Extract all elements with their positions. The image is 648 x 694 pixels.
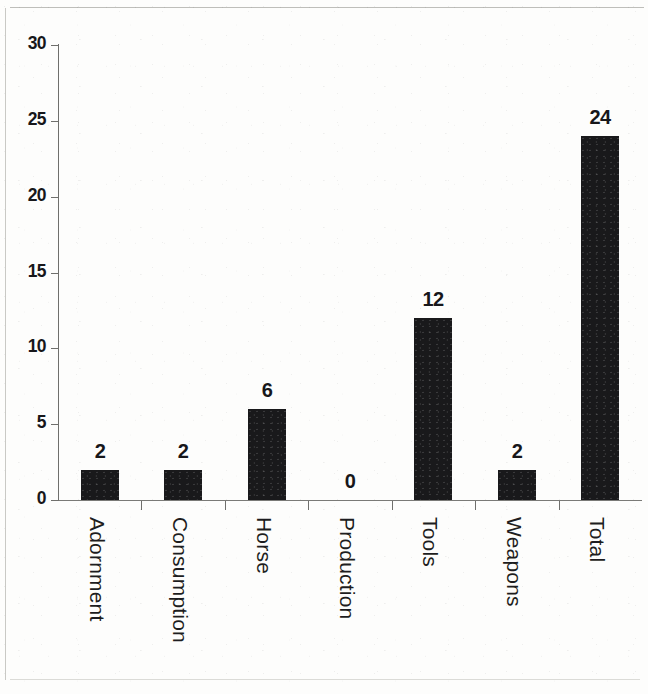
x-axis-line <box>58 500 642 501</box>
bar-value-label: 0 <box>310 470 390 493</box>
x-axis-tick <box>475 501 476 510</box>
y-axis-tick-label: 5 <box>11 411 46 433</box>
x-axis-tick <box>141 501 142 510</box>
bar <box>414 318 452 500</box>
x-axis-tick <box>225 501 226 510</box>
x-axis-category-label: Production <box>335 517 359 619</box>
y-axis-tick <box>51 197 59 198</box>
y-axis-tick-label: 10 <box>11 335 46 357</box>
y-axis-tick <box>51 273 59 274</box>
y-axis-tick-label: 15 <box>11 260 46 282</box>
bar-value-label: 2 <box>143 440 223 463</box>
bar <box>498 470 536 500</box>
x-axis-tick <box>559 501 560 510</box>
bar <box>581 136 619 500</box>
x-axis-category-label: Total <box>585 517 609 562</box>
bar-value-label: 12 <box>393 288 473 311</box>
x-axis-category-label: Weapons <box>502 517 526 607</box>
y-axis-tick <box>51 348 59 349</box>
scanned-page: 051015202530 226012224 AdornmentConsumpt… <box>0 0 648 694</box>
bar-chart: 051015202530 226012224 AdornmentConsumpt… <box>0 0 648 694</box>
y-axis-tick <box>51 121 59 122</box>
y-axis-tick-label: 0 <box>11 487 46 509</box>
x-axis-tick <box>308 501 309 510</box>
bar-value-label: 6 <box>227 379 307 402</box>
x-axis-category-label: Tools <box>418 517 442 567</box>
bar <box>81 470 119 500</box>
y-axis-tick-label: 30 <box>11 32 46 54</box>
x-axis-category-label: Adornment <box>85 517 109 622</box>
y-axis-tick <box>51 500 59 501</box>
y-axis-tick-label: 25 <box>11 108 46 130</box>
y-axis-tick-label: 20 <box>11 184 46 206</box>
x-axis-category-label: Horse <box>252 517 276 574</box>
x-axis-category-label: Consumption <box>168 517 192 643</box>
bar-value-label: 24 <box>560 106 640 129</box>
bar <box>248 409 286 500</box>
bar <box>164 470 202 500</box>
x-axis-tick <box>392 501 393 510</box>
bar-value-label: 2 <box>60 440 140 463</box>
bar-value-label: 2 <box>477 440 557 463</box>
y-axis-tick <box>51 424 59 425</box>
y-axis-tick <box>51 45 59 46</box>
